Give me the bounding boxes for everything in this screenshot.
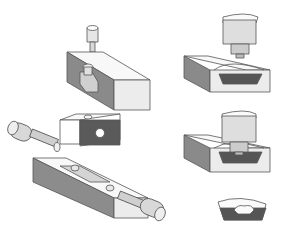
mould-components-diagram xyxy=(0,0,285,230)
left-core-rod-icon xyxy=(6,120,60,152)
punch-icon xyxy=(87,26,98,53)
punch-inserted-in-cavity xyxy=(184,111,270,172)
punch-and-split-block xyxy=(67,26,150,111)
hole-icon xyxy=(96,129,105,138)
diagram-canvas xyxy=(0,0,285,230)
cam-punch-over-cavity xyxy=(184,14,270,92)
finished-part xyxy=(218,198,266,220)
cored-block-with-hole xyxy=(60,114,120,146)
